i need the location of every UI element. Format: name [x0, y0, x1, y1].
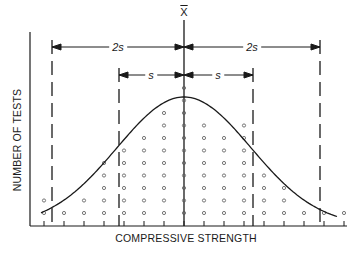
data-point: [82, 211, 85, 214]
s-right-label: s: [212, 69, 224, 81]
data-point: [282, 199, 285, 202]
data-point: [222, 211, 225, 214]
reference-lines: [52, 20, 320, 226]
data-point: [342, 211, 345, 214]
two-s-right-label: 2s: [243, 41, 261, 53]
data-point: [242, 211, 245, 214]
two-s-left-label: 2s: [109, 41, 127, 53]
data-point: [202, 211, 205, 214]
data-point: [162, 211, 165, 214]
data-point: [162, 111, 165, 114]
data-point: [242, 174, 245, 177]
data-point: [222, 199, 225, 202]
data-point: [242, 149, 245, 152]
data-point: [222, 161, 225, 164]
data-point: [202, 136, 205, 139]
data-point: [82, 199, 85, 202]
data-point: [202, 149, 205, 152]
data-point: [122, 174, 125, 177]
normal-distribution-curve: [41, 97, 337, 217]
data-point: [102, 186, 105, 189]
data-point: [122, 149, 125, 152]
arrowhead-icon: [184, 44, 193, 50]
data-point: [142, 186, 145, 189]
data-point: [202, 199, 205, 202]
data-point: [202, 174, 205, 177]
data-point: [122, 161, 125, 164]
arrowhead-icon: [52, 44, 61, 50]
s-left-label: s: [145, 69, 157, 81]
data-point: [62, 211, 65, 214]
data-point: [102, 199, 105, 202]
data-point: [122, 186, 125, 189]
x-ticks: [44, 221, 344, 226]
data-point: [282, 186, 285, 189]
data-point: [42, 199, 45, 202]
data-point: [162, 186, 165, 189]
data-point: [142, 149, 145, 152]
arrowhead-icon: [244, 72, 253, 78]
arrowhead-icon: [311, 44, 320, 50]
data-point: [242, 161, 245, 164]
data-point: [282, 211, 285, 214]
data-point: [262, 186, 265, 189]
data-point: [102, 174, 105, 177]
data-point: [222, 136, 225, 139]
arrowhead-icon: [184, 72, 193, 78]
data-point: [142, 211, 145, 214]
data-point: [222, 174, 225, 177]
data-point: [162, 149, 165, 152]
data-point: [222, 149, 225, 152]
data-point: [142, 136, 145, 139]
data-point: [162, 124, 165, 127]
data-point: [202, 186, 205, 189]
data-point: [242, 199, 245, 202]
data-point: [202, 161, 205, 164]
data-point: [162, 136, 165, 139]
data-point: [222, 186, 225, 189]
data-point: [142, 174, 145, 177]
data-point: [262, 211, 265, 214]
data-point: [242, 124, 245, 127]
data-point: [162, 199, 165, 202]
data-point: [162, 174, 165, 177]
data-point: [302, 211, 305, 214]
data-point: [262, 199, 265, 202]
data-point: [102, 211, 105, 214]
data-point: [202, 124, 205, 127]
data-point: [162, 161, 165, 164]
data-point: [242, 186, 245, 189]
dimension-arrows: [52, 44, 320, 78]
data-point: [122, 199, 125, 202]
arrowhead-icon: [119, 72, 128, 78]
data-points: [42, 86, 345, 214]
chart-canvas: [0, 0, 358, 256]
data-point: [142, 161, 145, 164]
data-point: [122, 211, 125, 214]
data-point: [262, 174, 265, 177]
y-axis-label: NUMBER OF TESTS: [11, 89, 23, 192]
x-axis-label: COMPRESSIVE STRENGTH: [115, 232, 257, 244]
mean-label: X: [180, 6, 187, 18]
data-point: [142, 199, 145, 202]
